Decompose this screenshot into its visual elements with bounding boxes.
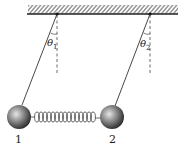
- angle-arc-2: [144, 33, 151, 34]
- angle-label-2: θ2: [140, 38, 151, 52]
- ball-1: [7, 105, 31, 129]
- ceiling-support: [27, 5, 178, 14]
- ball-label-2: 2: [109, 133, 116, 146]
- string-1: [22, 14, 57, 105]
- ball-label-1: 1: [15, 133, 22, 146]
- theta-subscript: 2: [146, 44, 150, 52]
- angle-arc-1: [51, 33, 58, 34]
- string-2: [115, 14, 150, 106]
- angle-label-1: θ1: [47, 37, 58, 51]
- theta-subscript: 1: [53, 43, 57, 51]
- spring: [30, 112, 101, 122]
- ball-2: [100, 105, 124, 129]
- coupled-pendulum-diagram: [0, 0, 184, 152]
